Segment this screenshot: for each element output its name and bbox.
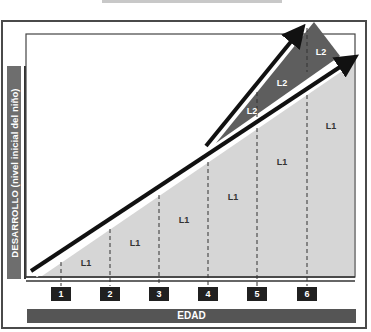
l2-label-3: L2 — [316, 47, 327, 57]
age-tick-5: 5 — [247, 287, 267, 301]
age-tick-1: 1 — [51, 287, 71, 301]
l1-label-2: L1 — [130, 238, 141, 248]
l1-label-4: L1 — [228, 192, 239, 202]
l1-label-5: L1 — [277, 157, 288, 167]
l2-label-2: L2 — [277, 78, 288, 88]
age-tick-3: 3 — [149, 287, 169, 301]
age-tick-2: 2 — [100, 287, 120, 301]
l1-label-1: L1 — [81, 258, 92, 268]
age-tick-4: 4 — [198, 287, 218, 301]
l1-label-6: L1 — [326, 121, 337, 131]
x-axis-label: EDAD — [27, 309, 356, 323]
age-tick-6: 6 — [297, 287, 317, 301]
l2-label-1: L2 — [247, 106, 258, 116]
l1-label-3: L1 — [179, 215, 190, 225]
diagram-plot: L1 L1 L1 L1 L1 L1 L2 L2 L2 — [0, 0, 371, 332]
